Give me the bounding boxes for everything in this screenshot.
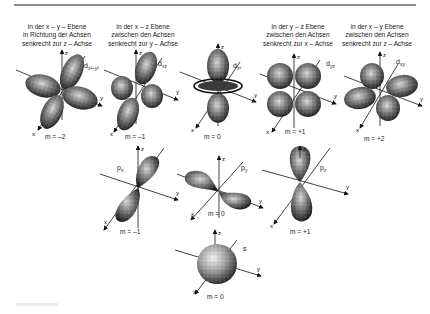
label-py: py bbox=[241, 164, 247, 173]
svg-text:z: z bbox=[218, 230, 221, 236]
svg-text:x: x bbox=[356, 127, 359, 133]
svg-text:y: y bbox=[334, 93, 337, 99]
top-rule bbox=[14, 4, 416, 6]
svg-text:z: z bbox=[139, 50, 142, 56]
svg-text:x: x bbox=[32, 131, 35, 137]
caption-dx2-y2: in der x – y – Ebene in Richtung der Ach… bbox=[22, 23, 92, 48]
svg-text:x: x bbox=[193, 289, 196, 295]
label-dxy: dxy bbox=[396, 58, 405, 67]
svg-text:z: z bbox=[383, 52, 386, 58]
svg-text:x: x bbox=[104, 219, 107, 225]
orbital-dz2: z y x bbox=[178, 42, 258, 134]
m-label-dx2-y2: m = –2 bbox=[45, 133, 65, 140]
m-label-dxy: m = +2 bbox=[364, 135, 385, 142]
svg-text:z: z bbox=[303, 146, 306, 152]
label-dxz: dxz bbox=[158, 60, 167, 69]
svg-text:x: x bbox=[110, 131, 113, 137]
m-label-px: m = –1 bbox=[120, 228, 140, 235]
orbital-s: z y x bbox=[175, 228, 265, 298]
m-label-pz: m = +1 bbox=[290, 228, 311, 235]
svg-text:z: z bbox=[297, 54, 300, 60]
svg-text:y: y bbox=[346, 184, 349, 190]
svg-text:x: x bbox=[266, 129, 269, 135]
svg-text:y: y bbox=[254, 92, 257, 98]
orbital-dxz: z y x bbox=[102, 48, 182, 138]
faint-footer-mark bbox=[16, 303, 58, 306]
label-s: s bbox=[243, 245, 247, 252]
orbital-dxy: z y x bbox=[338, 50, 426, 134]
m-label-py: m = 0 bbox=[208, 210, 225, 217]
label-px: px bbox=[117, 164, 123, 173]
orbital-pz: z y x bbox=[260, 144, 350, 230]
m-label-dz2: m = 0 bbox=[204, 133, 221, 140]
svg-text:x: x bbox=[270, 223, 273, 229]
caption-dyz: in der y – z Ebene zwischen den Achsen s… bbox=[263, 23, 333, 48]
m-label-dyz: m = +1 bbox=[285, 128, 306, 135]
label-pz: pz bbox=[320, 164, 326, 173]
m-label-s: m = 0 bbox=[207, 293, 224, 300]
svg-text:z: z bbox=[222, 156, 225, 162]
svg-text:z: z bbox=[221, 44, 224, 50]
svg-text:z: z bbox=[65, 50, 68, 56]
caption-dxy: in der x – y Ebene zwischen den Achsen s… bbox=[342, 23, 412, 48]
label-dz2: dz² bbox=[233, 62, 241, 71]
label-dyz: dyz bbox=[326, 60, 335, 69]
svg-text:y: y bbox=[420, 96, 423, 102]
caption-dxz: in der x – z Ebene zwischen den Achsen s… bbox=[108, 23, 178, 48]
label-dx2-y2: dx²–y² bbox=[84, 62, 99, 71]
m-label-dxz: m = –1 bbox=[125, 133, 145, 140]
orbital-px: z y x bbox=[100, 144, 180, 234]
svg-text:x: x bbox=[191, 127, 194, 133]
svg-text:x: x bbox=[191, 211, 194, 217]
svg-text:y: y bbox=[257, 266, 260, 272]
svg-text:z: z bbox=[141, 146, 144, 152]
